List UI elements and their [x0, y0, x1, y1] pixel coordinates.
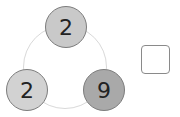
node-top: 2	[45, 6, 87, 48]
node-bottom-left-value: 2	[20, 78, 34, 103]
node-top-value: 2	[59, 15, 73, 40]
answer-box[interactable]	[141, 45, 170, 74]
node-bottom-right: 9	[83, 69, 125, 111]
node-bottom-right-value: 9	[97, 78, 111, 103]
node-bottom-left: 2	[6, 69, 48, 111]
